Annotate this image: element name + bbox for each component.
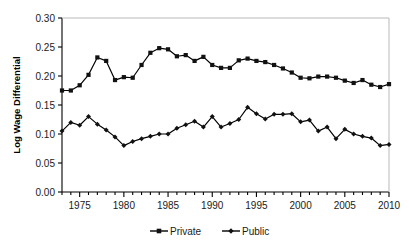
data-point-marker: [210, 63, 214, 67]
data-point-marker: [113, 78, 117, 82]
data-point-marker: [166, 47, 170, 51]
data-point-marker: [130, 139, 135, 144]
data-point-marker: [184, 53, 188, 57]
data-point-marker: [228, 66, 232, 70]
data-point-marker: [131, 76, 135, 80]
data-point-marker: [369, 83, 373, 87]
x-tick-label: 1985: [157, 200, 180, 211]
data-point-marker: [139, 136, 144, 141]
chart-legend: PrivatePublic: [150, 226, 269, 237]
data-point-marker: [157, 229, 162, 234]
data-point-marker: [316, 74, 320, 78]
x-tick-label: 1990: [201, 200, 224, 211]
series-public: [60, 105, 392, 148]
legend-label-public: Public: [242, 226, 269, 237]
data-point-marker: [254, 59, 258, 63]
x-tick-label: 1975: [69, 200, 92, 211]
data-point-marker: [378, 85, 382, 89]
data-point-marker: [352, 81, 356, 85]
data-point-marker: [307, 76, 311, 80]
data-point-marker: [157, 132, 162, 137]
data-point-marker: [78, 83, 82, 87]
x-tick-label: 1980: [113, 200, 136, 211]
x-tick-label: 2005: [334, 200, 357, 211]
data-point-marker: [122, 75, 126, 79]
x-tick-label: 2000: [289, 200, 312, 211]
data-point-marker: [351, 132, 356, 137]
data-point-marker: [272, 112, 277, 117]
y-tick-label: 0.10: [36, 129, 56, 140]
data-point-marker: [272, 63, 276, 67]
data-point-marker: [201, 55, 205, 59]
chart-plot-area: 0.000.050.100.150.200.250.30197519801985…: [0, 0, 409, 246]
data-point-marker: [360, 78, 364, 82]
data-point-marker: [227, 121, 232, 126]
y-tick-label: 0.25: [36, 42, 56, 53]
data-point-marker: [148, 134, 153, 139]
data-point-marker: [228, 228, 233, 233]
data-point-marker: [157, 46, 161, 50]
legend-label-private: Private: [170, 226, 202, 237]
data-point-marker: [343, 79, 347, 83]
data-point-marker: [280, 112, 285, 117]
data-point-marker: [387, 82, 391, 86]
data-point-marker: [219, 66, 223, 70]
x-tick-label: 1995: [245, 200, 268, 211]
data-point-marker: [245, 57, 249, 61]
data-point-marker: [281, 66, 285, 70]
series-line: [62, 48, 389, 90]
data-point-marker: [139, 63, 143, 67]
y-tick-label: 0.20: [36, 71, 56, 82]
data-point-marker: [104, 59, 108, 63]
data-point-marker: [95, 55, 99, 59]
data-point-marker: [148, 51, 152, 55]
data-point-marker: [387, 142, 392, 147]
data-point-marker: [183, 122, 188, 127]
y-tick-label: 0.00: [36, 187, 56, 198]
data-point-marker: [192, 59, 196, 63]
series-private: [60, 46, 391, 93]
data-point-marker: [60, 88, 64, 92]
series-line: [62, 107, 389, 145]
data-point-marker: [237, 58, 241, 62]
data-point-marker: [86, 73, 90, 77]
data-point-marker: [334, 76, 338, 80]
y-tick-label: 0.30: [36, 13, 56, 24]
data-point-marker: [299, 76, 303, 80]
y-axis-title: Log Wage Differential: [11, 56, 22, 153]
data-point-marker: [325, 74, 329, 78]
data-point-marker: [69, 88, 73, 92]
y-tick-label: 0.05: [36, 158, 56, 169]
data-point-marker: [175, 54, 179, 58]
x-tick-label: 2010: [378, 200, 401, 211]
data-point-marker: [360, 134, 365, 139]
data-point-marker: [263, 60, 267, 64]
y-tick-label: 0.15: [36, 100, 56, 111]
data-point-marker: [290, 70, 294, 74]
chart-figure: 0.000.050.100.150.200.250.30197519801985…: [0, 0, 409, 246]
data-point-marker: [263, 116, 268, 121]
